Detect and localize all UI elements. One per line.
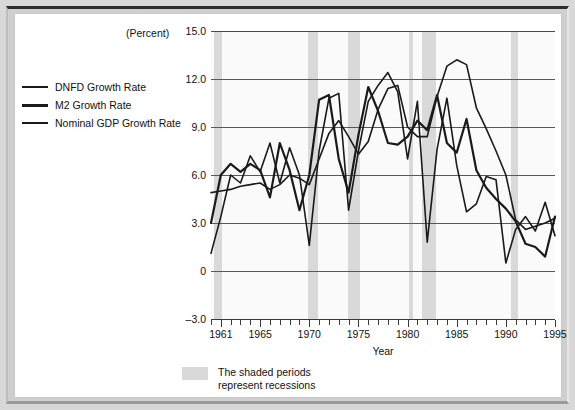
x-axis-tick-label: 1965 [248,328,271,340]
legend-item-label: DNFD Growth Rate [55,81,146,93]
x-axis-tick [231,320,232,325]
y-axis-labels: 15.012.09.06.03.00–3.0 [150,0,206,410]
x-axis-tick [221,320,222,327]
x-axis-tick [270,320,271,325]
x-axis-tick [496,320,497,325]
line-chart: (Percent) 15.012.09.06.03.00–3.0 1961196… [0,0,575,410]
recession-footnote-text: The shaded periods represent recessions [218,366,315,392]
x-axis-tick-label: 1980 [396,328,419,340]
x-axis-title: Year [211,345,555,357]
x-axis-tick-label: 1990 [494,328,517,340]
x-axis-tick [290,320,291,325]
x-axis-tick [309,320,310,327]
x-axis-tick [378,320,379,325]
x-axis-tick [535,320,536,325]
x-axis-line [211,319,555,320]
legend: DNFD Growth RateM2 Growth RateNominal GD… [22,78,202,132]
x-axis-tick [467,320,468,325]
y-axis-tick-label: 0 [200,266,206,277]
legend-item: DNFD Growth Rate [22,78,202,96]
x-axis-tick-label: 1975 [347,328,370,340]
x-axis-tick [240,320,241,325]
x-axis-tick [516,320,517,325]
x-axis-tick [329,320,330,325]
x-axis-tick [486,320,487,325]
x-axis-tick [526,320,527,325]
x-axis-tick-label: 1970 [298,328,321,340]
x-axis-tick [299,320,300,325]
y-axis-tick-label: –3.0 [186,314,206,325]
legend-line-swatch [22,104,48,107]
x-axis-tick [260,320,261,327]
x-axis-tick [339,320,340,325]
figure-page: (Percent) 15.012.09.06.03.00–3.0 1961196… [0,0,575,410]
x-axis-tick [457,320,458,327]
y-axis-tick-label: 6.0 [191,170,206,181]
legend-line-swatch [22,122,48,124]
y-axis-tick-label: 3.0 [191,218,206,229]
recession-footnote: The shaded periods represent recessions [182,366,315,392]
x-axis-tick [506,320,507,327]
x-axis-tick [368,320,369,325]
legend-item: Nominal GDP Growth Rate [22,114,202,132]
x-axis-tick [211,320,212,325]
x-axis-tick [398,320,399,325]
legend-item-label: M2 Growth Rate [55,99,131,111]
x-axis-tick [417,320,418,325]
footnote-line-1: The shaded periods [218,366,315,379]
x-axis-tick [250,320,251,325]
x-axis-tick [388,320,389,325]
footnote-line-2: represent recessions [218,379,315,392]
x-axis-tick [447,320,448,325]
x-axis-tick [280,320,281,325]
recession-swatch [182,367,208,380]
legend-item-label: Nominal GDP Growth Rate [55,117,181,129]
x-axis-tick-label: 1985 [445,328,468,340]
x-axis-tick-label: 1961 [209,328,232,340]
x-axis-tick [427,320,428,325]
legend-item: M2 Growth Rate [22,96,202,114]
x-axis-tick [555,320,556,327]
series-lines [211,31,555,319]
series-line [211,60,555,230]
x-axis-tick [545,320,546,325]
x-axis-tick-label: 1995 [543,328,566,340]
series-line [211,87,555,257]
x-axis-tick [408,320,409,327]
x-axis-tick [476,320,477,325]
y-axis-tick-label: 15.0 [186,26,206,37]
legend-line-swatch [22,86,48,88]
x-axis-tick [358,320,359,327]
x-axis-tick [349,320,350,325]
x-axis-tick [437,320,438,325]
x-axis-tick [319,320,320,325]
